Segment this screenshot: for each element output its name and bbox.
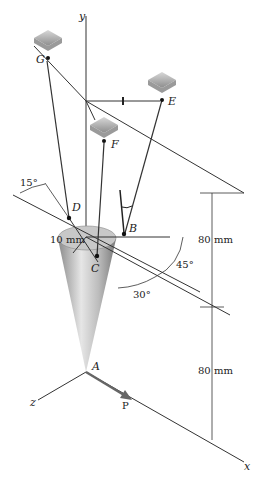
force-P-label: P [122, 400, 129, 411]
wire-GD [47, 61, 69, 218]
angle-30-label: 30° [133, 289, 151, 300]
support-E [148, 72, 176, 93]
radius-label: 10 mm [50, 234, 85, 245]
angle-15-label: 15° [20, 177, 38, 188]
y-axis-label: y [78, 10, 86, 23]
support-F [90, 117, 118, 138]
upper-height-label: 80 mm [198, 234, 233, 245]
cone-diagram: y x z 15° 45° 30° 80 mm 80 mm 10 mm [0, 0, 254, 477]
point-F-label: F [110, 138, 119, 151]
angle-45-label: 45° [176, 259, 194, 270]
support-G [34, 30, 62, 51]
wire-EB [125, 100, 162, 233]
force-P-arrow [86, 372, 124, 395]
point-D-label: D [71, 201, 81, 214]
x-axis-label: x [244, 460, 251, 473]
point-B-label: B [128, 222, 137, 235]
point-G-label: G [36, 53, 45, 66]
z-axis-label: z [29, 396, 36, 409]
cone-body [58, 239, 116, 372]
point-C-label: C [91, 262, 100, 275]
z-axis [38, 372, 86, 400]
lower-height-label: 80 mm [198, 365, 233, 376]
point-A-label: A [91, 360, 100, 373]
point-E-label: E [167, 95, 176, 108]
